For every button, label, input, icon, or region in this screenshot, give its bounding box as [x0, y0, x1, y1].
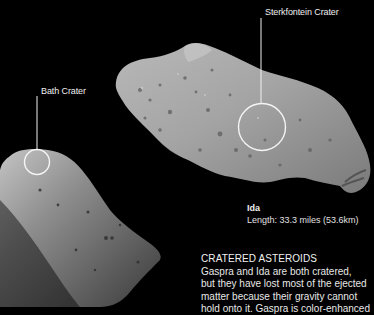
info-line: matter because their gravity cannot: [201, 291, 374, 303]
sterkfontein-crater-label: Sterkfontein Crater: [265, 7, 339, 17]
ida-asteroid: [116, 43, 371, 193]
bath-crater-label: Bath Crater: [41, 86, 86, 96]
info-title: CRATERED ASTEROIDS: [201, 253, 317, 264]
info-body: Gaspra and Ida are both cratered, but th…: [201, 266, 374, 315]
ida-name: Ida: [247, 203, 260, 213]
info-line: Gaspra and Ida are both cratered,: [201, 266, 374, 278]
ida-length: Length: 33.3 miles (53.6km): [247, 215, 359, 225]
info-line: hold onto it. Gaspra is color-enhanced: [201, 303, 374, 315]
gaspra-asteroid: [0, 149, 161, 307]
info-line: but they have lost most of the ejected: [201, 278, 374, 290]
